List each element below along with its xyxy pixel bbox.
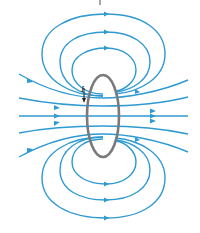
field-line: [19, 126, 188, 134]
diagram-canvas: I: [0, 0, 200, 233]
field-line: [19, 74, 188, 98]
field-diagram: I: [0, 0, 200, 233]
lower-field-loops: [42, 137, 165, 218]
field-line: [19, 134, 188, 157]
field-line: [72, 139, 136, 184]
through-field-lines: [19, 74, 188, 157]
upper-field-loops: [42, 14, 165, 96]
